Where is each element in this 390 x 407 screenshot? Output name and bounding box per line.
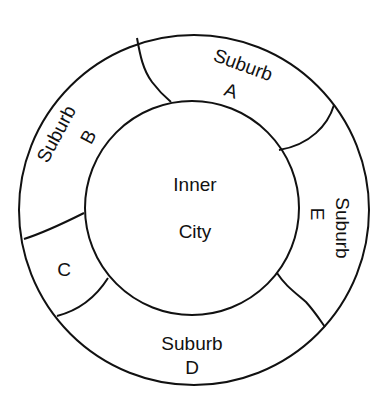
boundary-e-d <box>277 273 325 327</box>
boundary-a-e <box>279 105 334 150</box>
boundary-a-b <box>137 38 171 102</box>
svg-text:Suburb: Suburb <box>332 197 353 258</box>
suburb-a-label: Suburb A <box>211 45 276 103</box>
svg-text:A: A <box>222 79 241 103</box>
inner-city-boundary <box>85 101 299 315</box>
suburb-b-label: Suburb B <box>33 102 101 166</box>
boundary-c-d <box>57 278 108 316</box>
svg-text:D: D <box>185 357 199 378</box>
suburb-e-label: Suburb E <box>307 197 353 258</box>
boundary-b-c <box>24 213 84 239</box>
inner-city-label: Inner City <box>173 174 217 242</box>
suburb-c-label: C <box>57 259 71 280</box>
city-zones-diagram: Inner City Suburb A Suburb B C Suburb D … <box>0 0 390 407</box>
suburb-d-label: Suburb D <box>161 333 222 378</box>
svg-text:Inner: Inner <box>173 174 217 195</box>
svg-text:City: City <box>179 221 212 242</box>
svg-text:Suburb: Suburb <box>33 102 80 166</box>
svg-text:C: C <box>57 259 71 280</box>
svg-text:E: E <box>307 208 328 221</box>
svg-text:B: B <box>76 126 100 147</box>
svg-text:Suburb: Suburb <box>161 333 222 354</box>
